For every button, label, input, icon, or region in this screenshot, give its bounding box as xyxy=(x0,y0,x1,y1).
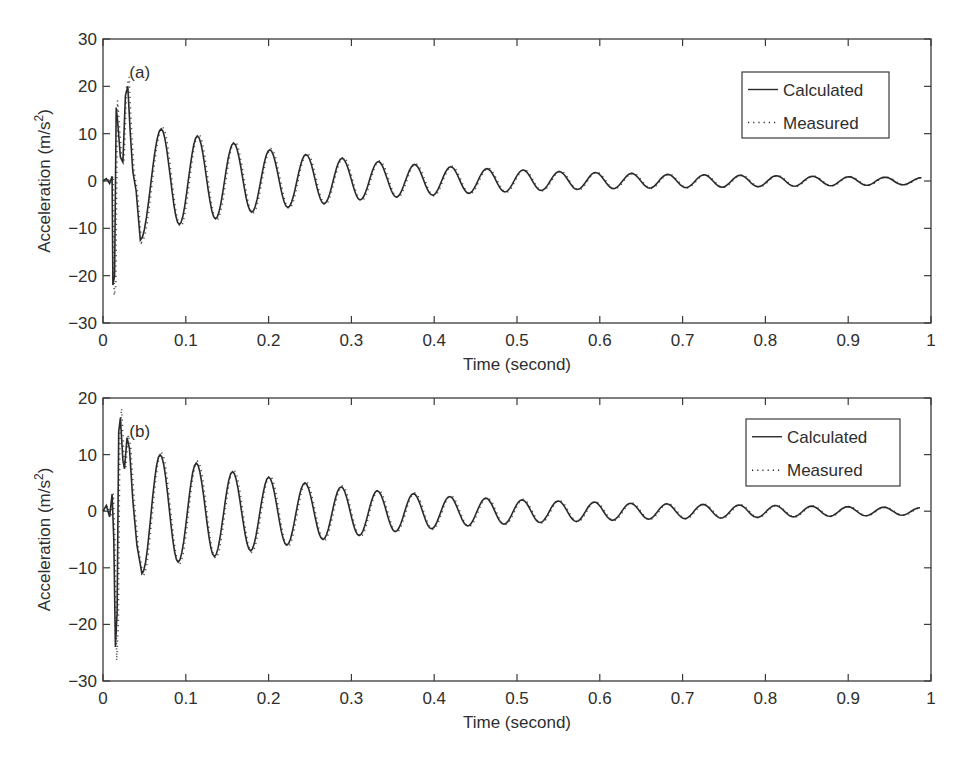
x-tick-label: 0.3 xyxy=(340,689,364,708)
panel-label: (a) xyxy=(129,63,150,82)
y-tick-label: −20 xyxy=(68,267,97,286)
x-tick-label: 0 xyxy=(98,689,107,708)
legend-label: Measured xyxy=(787,461,863,480)
figure: 00.10.20.30.40.50.60.70.80.913020100−10−… xyxy=(0,0,962,760)
y-tick-label: −30 xyxy=(68,314,97,333)
x-tick-label: 0.9 xyxy=(836,331,860,350)
x-tick-label: 0.8 xyxy=(754,331,778,350)
y-tick-label: −10 xyxy=(68,219,97,238)
y-tick-label: −10 xyxy=(68,559,97,578)
y-tick-label: 0 xyxy=(88,502,97,521)
plot-panel-a: 00.10.20.30.40.50.60.70.80.913020100−10−… xyxy=(32,30,936,374)
x-tick-label: 0.2 xyxy=(257,689,281,708)
x-tick-label: 0.1 xyxy=(174,331,198,350)
y-tick-label: 10 xyxy=(78,446,97,465)
y-tick-label: −30 xyxy=(68,672,97,691)
x-tick-label: 0.4 xyxy=(422,689,446,708)
x-tick-label: 0.2 xyxy=(257,331,281,350)
x-tick-label: 0.6 xyxy=(588,689,612,708)
y-tick-label: −20 xyxy=(68,615,97,634)
y-tick-label: 30 xyxy=(78,30,97,49)
legend-label: Measured xyxy=(783,114,859,133)
panel-label: (b) xyxy=(129,422,150,441)
y-axis-label: Acceleration (m/s2) xyxy=(32,109,54,253)
plot-panel-b: 00.10.20.30.40.50.60.70.80.9120100−10−20… xyxy=(32,389,936,732)
x-tick-label: 0.5 xyxy=(505,689,529,708)
y-tick-label: 20 xyxy=(78,77,97,96)
x-tick-label: 0.1 xyxy=(174,689,198,708)
x-tick-label: 0.7 xyxy=(671,331,695,350)
x-tick-label: 0.3 xyxy=(340,331,364,350)
y-tick-label: 0 xyxy=(88,172,97,191)
y-tick-label: 20 xyxy=(78,389,97,408)
legend-label: Calculated xyxy=(787,428,867,447)
x-axis-label: Time (second) xyxy=(463,355,571,374)
y-axis-label: Acceleration (m/s2) xyxy=(32,468,54,612)
x-tick-label: 0.8 xyxy=(754,689,778,708)
legend: CalculatedMeasured xyxy=(742,72,889,138)
x-axis-label: Time (second) xyxy=(463,713,571,732)
x-tick-label: 0 xyxy=(98,331,107,350)
x-tick-label: 0.7 xyxy=(671,689,695,708)
x-tick-label: 0.5 xyxy=(505,331,529,350)
x-tick-label: 1 xyxy=(926,689,935,708)
legend-label: Calculated xyxy=(783,81,863,100)
legend: CalculatedMeasured xyxy=(746,419,900,486)
x-tick-label: 0.4 xyxy=(422,331,446,350)
y-tick-label: 10 xyxy=(78,125,97,144)
x-tick-label: 1 xyxy=(926,331,935,350)
x-tick-label: 0.6 xyxy=(588,331,612,350)
x-tick-label: 0.9 xyxy=(836,689,860,708)
